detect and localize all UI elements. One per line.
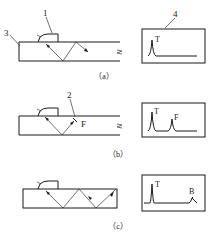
beam-path-b <box>45 117 74 135</box>
label-4: 4 <box>173 9 178 19</box>
caption-b: （b） <box>108 150 128 159</box>
break-mark-a <box>117 50 122 54</box>
peak-T-a: T <box>155 35 160 44</box>
label-2: 2 <box>67 90 72 100</box>
peak-T-c: T <box>155 180 160 189</box>
panel-c: T B （c） <box>23 175 205 231</box>
panel-b: 2 F T F （b） <box>19 90 205 159</box>
probe-b <box>38 108 58 116</box>
label-3: 3 <box>4 28 9 38</box>
probe-c <box>38 181 58 189</box>
probe-a <box>38 34 58 42</box>
peak-B-c: B <box>189 187 194 196</box>
plate-c <box>23 189 117 208</box>
plate-b <box>19 116 120 135</box>
peak-F-b: F <box>174 113 179 122</box>
caption-c: （c） <box>108 222 128 231</box>
panel-a: 1 3 4 T （a） <box>4 8 205 81</box>
label-1: 1 <box>43 8 48 18</box>
caption-a: （a） <box>94 72 114 81</box>
ultrasonic-testing-figure: 1 3 4 T （a） 2 F T F （b） <box>0 0 216 245</box>
defect-letter-F: F <box>81 119 86 129</box>
beam-path-a <box>46 42 88 61</box>
beam-path-c <box>46 189 116 208</box>
peak-T-b: T <box>154 107 159 116</box>
